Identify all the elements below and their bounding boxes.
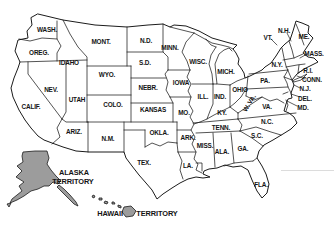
territory-label-hawaii: HAWAII bbox=[97, 209, 123, 218]
state-label-calif: CALIF. bbox=[22, 103, 41, 110]
state-label-s-d: S.D. bbox=[139, 59, 151, 66]
state-label-tex: TEX. bbox=[137, 159, 151, 166]
state-label-n-m: N.M. bbox=[102, 135, 115, 142]
state-label-ala: ALA. bbox=[215, 148, 230, 155]
state-label-conn: CONN. bbox=[302, 76, 322, 83]
state-label-minn: MINN. bbox=[161, 44, 179, 51]
state-label-me: ME. bbox=[299, 33, 310, 40]
state-label-n-y: N.Y. bbox=[271, 61, 282, 68]
state-label-ind: IND. bbox=[214, 93, 227, 100]
state-label-nebr: NEBR. bbox=[138, 84, 158, 91]
state-label-ariz: ARIZ. bbox=[66, 128, 82, 135]
state-label-okla: OKLA. bbox=[149, 129, 169, 136]
state-label-kansas: KANSAS bbox=[140, 106, 167, 113]
territory-label-alaska: ALASKA bbox=[59, 168, 90, 177]
state-label-md: MD. bbox=[297, 104, 309, 111]
hawaii-island-4 bbox=[112, 202, 115, 204]
state-label-ohio: OHIO bbox=[232, 86, 248, 93]
state-label-wisc: WISC. bbox=[189, 58, 207, 65]
state-label-tenn: TENN. bbox=[212, 124, 231, 131]
alaska-panhandle bbox=[57, 185, 78, 206]
state-label-ky: KY. bbox=[217, 109, 227, 116]
state-label-miss: MISS. bbox=[197, 142, 214, 149]
map-figure: WASH.OREG.IDAHOMONT.WYO.NEV.UTAHCALIF.CO… bbox=[0, 0, 334, 234]
state-label-mo: MO. bbox=[178, 109, 190, 116]
territory-label-territory: TERRITORY bbox=[136, 209, 178, 218]
state-label-fla: FLA. bbox=[254, 181, 268, 188]
us-territories-map: WASH.OREG.IDAHOMONT.WYO.NEV.UTAHCALIF.CO… bbox=[0, 0, 334, 234]
alaska-island bbox=[7, 203, 11, 207]
state-label-ga: GA. bbox=[238, 145, 249, 152]
hawaii-island-2 bbox=[99, 198, 102, 200]
state-label-mass: MASS. bbox=[304, 50, 324, 57]
state-label-mich: MICH. bbox=[217, 68, 235, 75]
state-label-mont: MONT. bbox=[91, 38, 111, 45]
state-label-r-i: R.I. bbox=[303, 67, 313, 74]
state-label-n-h: N.H. bbox=[278, 27, 291, 34]
state-label-idaho: IDAHO bbox=[59, 59, 79, 66]
state-label-pa: PA. bbox=[260, 77, 270, 84]
hawaii-island-1 bbox=[92, 195, 95, 198]
state-label-wyo: WYO. bbox=[99, 71, 116, 78]
state-label-nev: NEV. bbox=[44, 86, 58, 93]
state-label-ill: ILL. bbox=[198, 93, 209, 100]
state-label-n-j: N.J. bbox=[299, 85, 310, 92]
state-label-del: DEL. bbox=[298, 95, 312, 102]
state-label-va: VA. bbox=[262, 103, 272, 110]
hawaii-big-island bbox=[122, 206, 136, 217]
state-label-oreg: OREG. bbox=[29, 49, 49, 56]
state-label-n-c: N.C. bbox=[261, 118, 274, 125]
territory-label-territory: TERRITORY bbox=[52, 177, 94, 186]
state-label-iowa: IOWA bbox=[173, 79, 190, 86]
state-label-ark: ARK. bbox=[180, 134, 195, 141]
state-label-wash: WASH. bbox=[37, 26, 58, 33]
state-label-n-d: N.D. bbox=[140, 37, 153, 44]
state-label-s-c: S.C. bbox=[251, 132, 263, 139]
state-label-vt: VT. bbox=[264, 34, 273, 41]
hawaii-island-3 bbox=[104, 201, 108, 204]
state-label-colo: COLO. bbox=[103, 101, 123, 108]
state-label-la: LA. bbox=[183, 162, 193, 169]
state-label-utah: UTAH bbox=[69, 96, 86, 103]
